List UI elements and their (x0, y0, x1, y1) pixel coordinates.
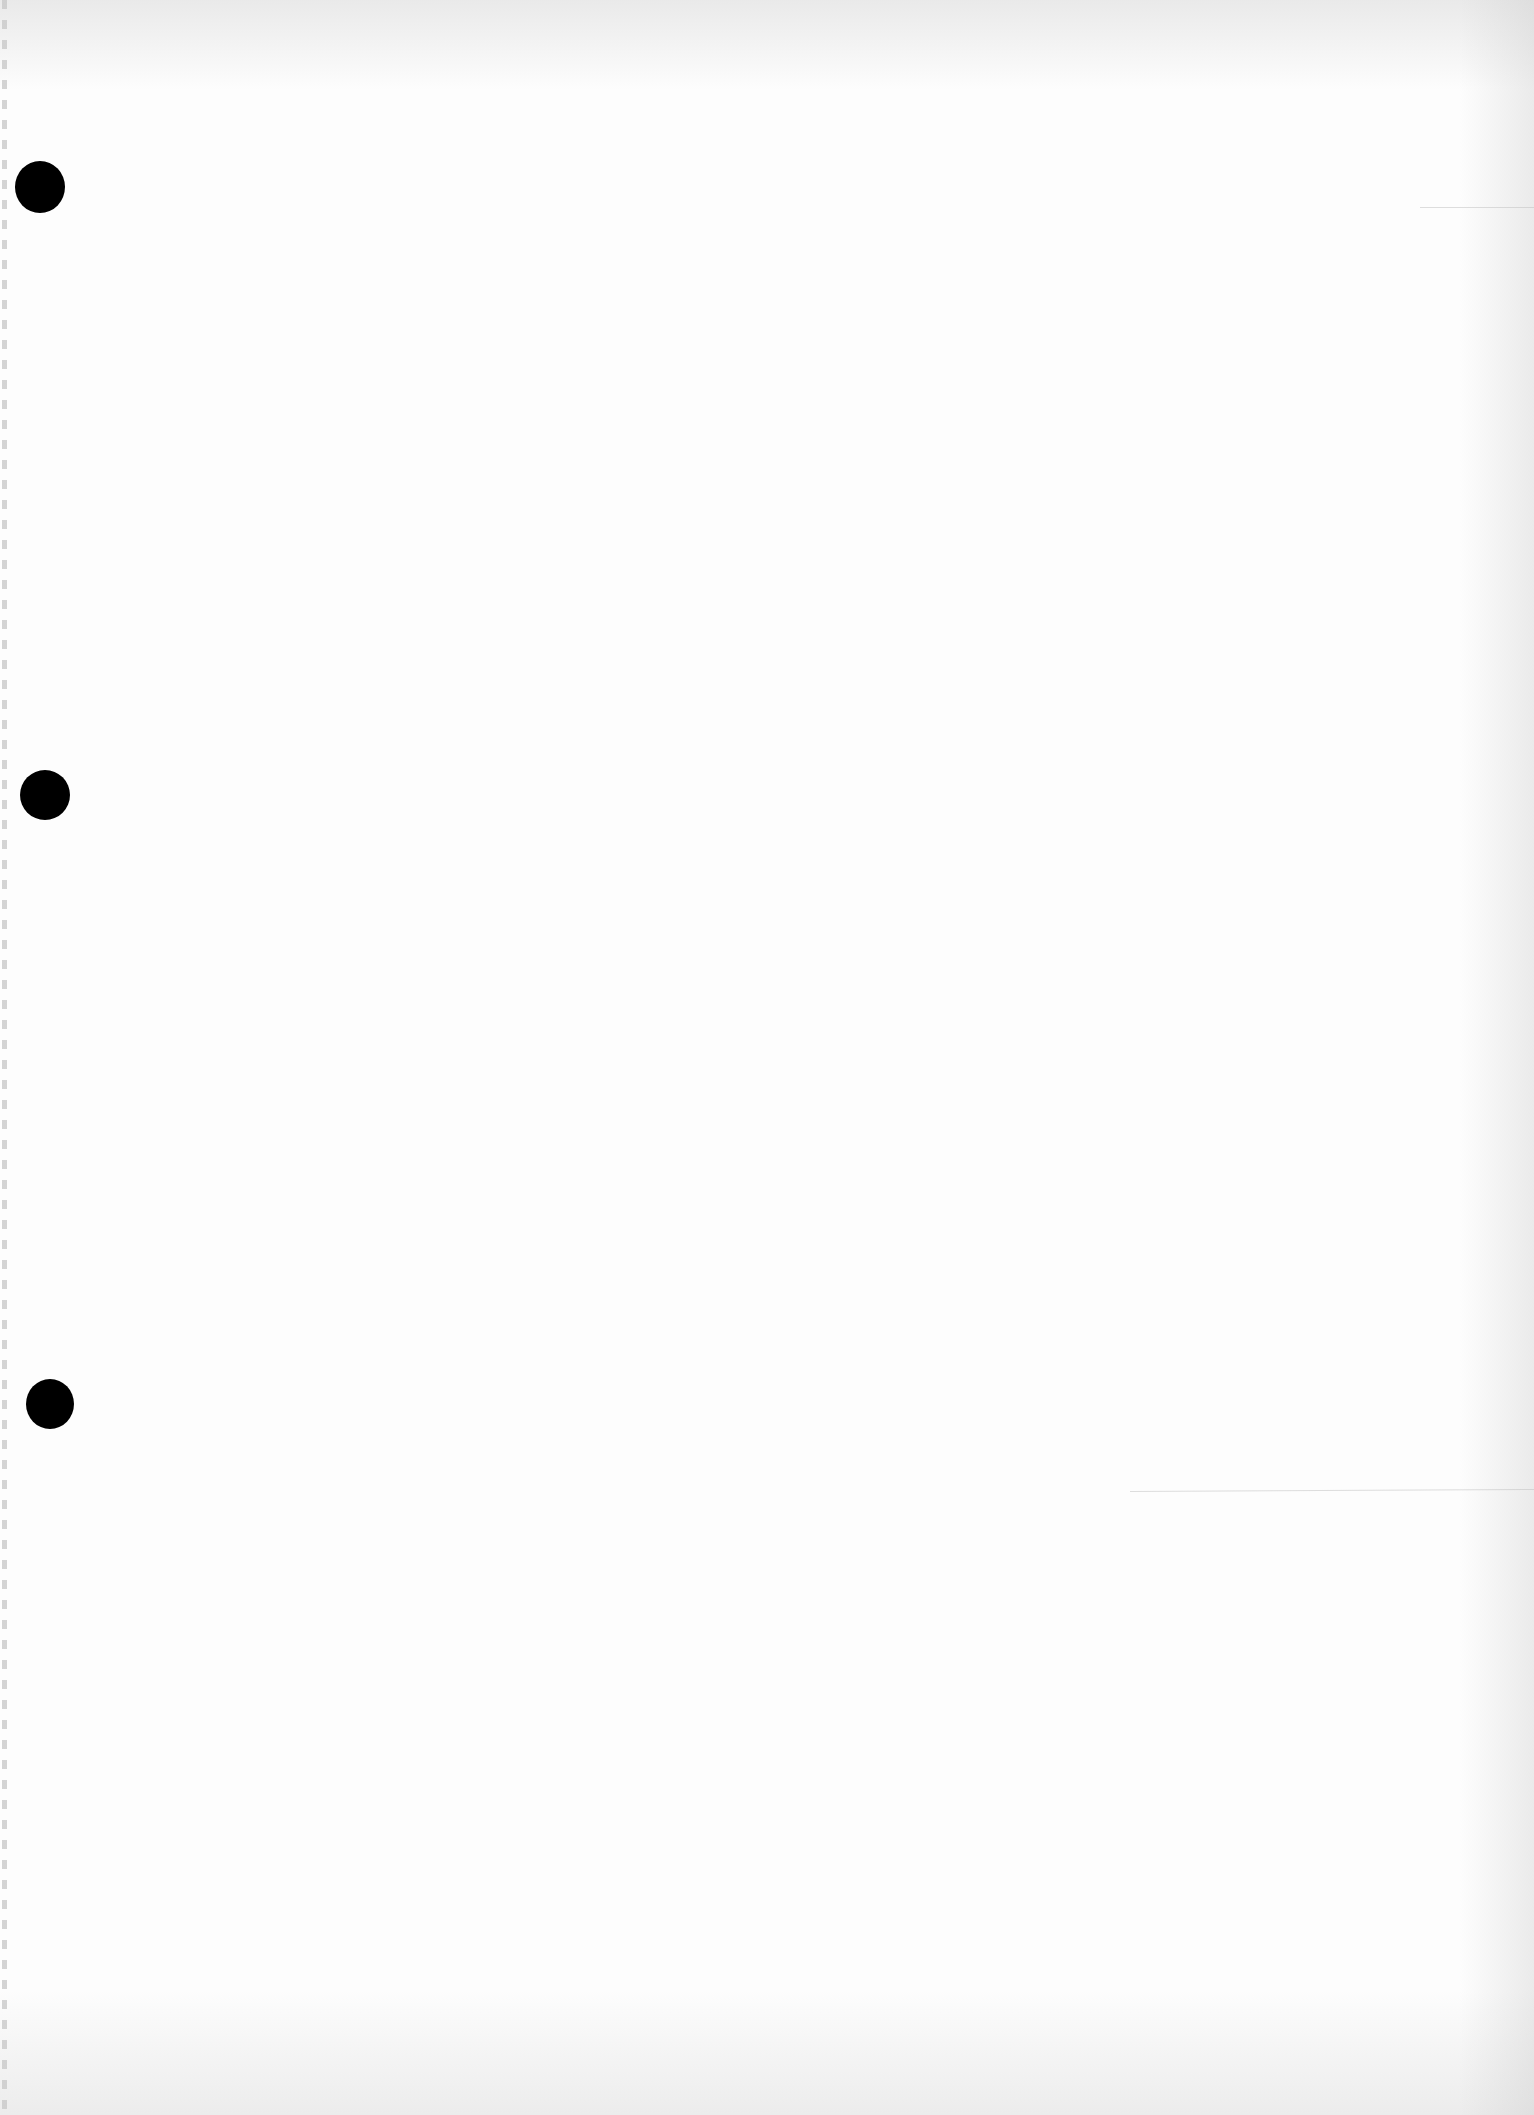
blank-paper-page (0, 0, 1534, 2115)
perforated-left-edge (2, 0, 7, 2115)
faint-crease-line (1420, 207, 1534, 208)
punch-hole-top (15, 161, 65, 213)
punch-hole-bottom (26, 1379, 74, 1429)
punch-hole-middle (20, 770, 70, 820)
faint-crease-line (1130, 1489, 1534, 1492)
